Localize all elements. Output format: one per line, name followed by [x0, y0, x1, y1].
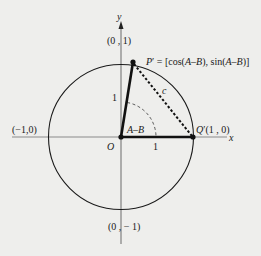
point-p-prime [130, 59, 135, 64]
point-origin [118, 134, 123, 139]
label-origin: O [107, 141, 114, 152]
y-axis-label: y [116, 11, 122, 22]
label-p-prime: P′ = [cos(A–B), sin(A–B)] [145, 56, 249, 68]
label-q-prime: Q′(1 , 0) [196, 124, 230, 136]
label-bottom-point: (0 , − 1) [108, 221, 140, 233]
label-angle: A–B [126, 124, 144, 135]
label-top-point: (0 , 1) [107, 35, 131, 47]
label-op-length: 1 [112, 92, 117, 103]
label-left-point: (−1,0) [12, 124, 37, 136]
point-q-prime [190, 134, 195, 139]
unit-circle-diagram: y x (0 , 1) (0 , − 1) (−1,0) O P′ = [cos… [0, 0, 261, 256]
label-chord-c: c [162, 85, 167, 96]
y-axis-arrow-icon [119, 21, 124, 29]
label-oq-length: 1 [153, 141, 158, 152]
